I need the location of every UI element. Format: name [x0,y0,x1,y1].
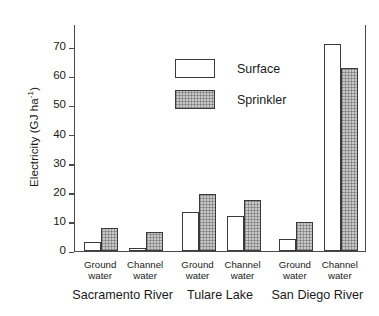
bar-surface-1 [129,248,146,251]
legend-swatch-surface [175,59,215,78]
y-tick-label: 60 [53,69,66,81]
subcat-line2: water [283,270,307,281]
x-subcategory-label-3: Channelwater [213,259,273,281]
y-tick-label: 10 [53,215,66,227]
subcat-line1: Ground [84,259,116,270]
bar-sprinkler-2 [199,194,216,251]
bar-surface-4 [279,239,296,251]
bar-surface-2 [182,212,199,251]
y-axis-title-close: ) [28,87,40,91]
subcat-line2: water [88,270,112,281]
y-axis-title-text: Electricity (GJ ha [28,98,40,187]
legend-item-surface: Surface [175,58,286,79]
y-tick-label: 30 [53,157,66,169]
y-axis-title: Electricity (GJ ha-1) [26,52,40,222]
subcat-line2: water [133,270,157,281]
subcat-line2: water [186,270,210,281]
bar-chart-figure: Electricity (GJ ha-1) 010203040506070 Su… [0,0,379,316]
subcat-line2: water [328,270,352,281]
legend-label-surface: Surface [237,62,280,76]
bar-surface-3 [227,216,244,251]
subcat-line1: Channel [127,259,163,270]
legend-item-sprinkler: Sprinkler [175,89,286,110]
bar-surface-5 [324,44,341,251]
y-tick-label: 70 [53,40,66,52]
y-axis-title-exponent: -1 [26,91,35,98]
bar-sprinkler-5 [341,68,358,251]
subcat-line1: Channel [224,259,260,270]
y-tick-label: 20 [53,186,66,198]
bar-surface-0 [84,242,101,251]
subcat-line2: water [231,270,255,281]
subcat-line1: Ground [279,259,311,270]
bar-sprinkler-3 [244,200,261,251]
legend-swatch-sprinkler [175,90,215,109]
x-subcategory-label-1: Channelwater [115,259,175,281]
x-subcategory-label-5: Channelwater [310,259,370,281]
plot-area: Surface Sprinkler [74,25,366,252]
y-tick-label: 50 [53,98,66,110]
chart-legend: Surface Sprinkler [175,58,286,120]
subcat-line1: Ground [181,259,213,270]
y-tick-label: 0 [60,244,66,256]
y-tick-label: 40 [53,128,66,140]
subcat-line1: Channel [322,259,358,270]
x-group-label-2: San Diego River [247,288,379,302]
bar-sprinkler-0 [101,228,118,251]
legend-label-sprinkler: Sprinkler [237,93,286,107]
bar-sprinkler-4 [296,222,313,251]
bar-sprinkler-1 [146,232,163,251]
